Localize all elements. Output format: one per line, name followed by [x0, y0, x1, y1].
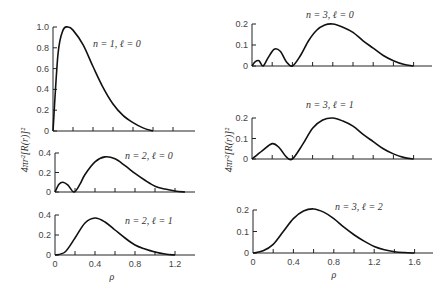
panel-label: n = 2, ℓ = 1 — [125, 215, 173, 226]
y-tick-label: 0.2 — [36, 105, 49, 115]
x-axis-title-left: ρ — [109, 271, 115, 282]
y-tick-label: 0.4 — [38, 210, 51, 220]
y-tick-label: 0.2 — [38, 168, 51, 178]
panel-n3l2: 00.10.200.40.81.21.6n = 3, ℓ = 2 — [236, 201, 433, 267]
y-tick-label: 0 — [243, 154, 248, 164]
panel-label: n = 3, ℓ = 1 — [306, 99, 354, 110]
y-tick-label: 0.2 — [236, 205, 249, 215]
panel-n1l0: 00.20.40.60.81.0n = 1, ℓ = 0 — [36, 22, 195, 136]
y-tick-label: 0.1 — [236, 227, 249, 237]
panel-label: n = 3, ℓ = 2 — [335, 201, 383, 212]
curve-n3l0 — [252, 24, 414, 66]
y-tick-label: 0.1 — [235, 134, 248, 144]
y-tick-label: 0.6 — [36, 64, 49, 74]
y-tick-label: 0.2 — [38, 230, 51, 240]
x-tick-label: 0.8 — [328, 257, 341, 267]
radial-distribution-figure: 00.20.40.60.81.0n = 1, ℓ = 000.20.4n = 2… — [0, 0, 446, 293]
panel-label: n = 1, ℓ = 0 — [93, 38, 141, 49]
panel-label: n = 3, ℓ = 0 — [306, 9, 354, 20]
panel-n3l1: 00.10.2n = 3, ℓ = 1 — [235, 99, 432, 164]
y-tick-label: 0.8 — [36, 43, 49, 53]
y-tick-label: 0.2 — [235, 113, 248, 123]
x-tick-label: 0.4 — [287, 257, 300, 267]
y-tick-label: 1.0 — [36, 22, 49, 32]
y-tick-label: 0 — [46, 187, 51, 197]
x-tick-label: 1.6 — [408, 257, 421, 267]
y-tick-label: 0.1 — [235, 40, 248, 50]
y-axis-title-right: 4πr²[R(r)]² — [223, 127, 235, 172]
panel-n2l0: 00.20.4n = 2, ℓ = 0 — [38, 148, 195, 197]
panel-label: n = 2, ℓ = 0 — [125, 150, 173, 161]
y-tick-label: 0 — [243, 61, 248, 71]
panel-n2l1: 00.20.400.40.81.2n = 2, ℓ = 1 — [38, 210, 195, 269]
panels-group: 00.20.40.60.81.0n = 1, ℓ = 000.20.4n = 2… — [36, 9, 433, 269]
y-tick-label: 0 — [44, 126, 49, 136]
y-axis-title: 4πr²[R(r)]² — [19, 127, 31, 172]
curve-n2l0 — [55, 157, 185, 192]
x-tick-label: 0 — [250, 257, 255, 267]
x-tick-label: 1.2 — [169, 259, 182, 269]
y-tick-label: 0.4 — [38, 148, 51, 158]
y-tick-label: 0.4 — [36, 84, 49, 94]
x-axis-title-right: ρ — [331, 269, 337, 280]
x-tick-label: 0 — [52, 259, 57, 269]
y-tick-label: 0.2 — [235, 19, 248, 29]
curve-n3l2 — [253, 209, 415, 253]
x-tick-label: 0.8 — [129, 259, 142, 269]
y-tick-label: 0 — [46, 250, 51, 260]
curve-n3l1 — [252, 118, 414, 160]
x-tick-label: 1.2 — [368, 257, 381, 267]
x-tick-label: 0.4 — [89, 259, 102, 269]
y-tick-label: 0 — [244, 248, 249, 258]
panel-n3l0: 00.10.2n = 3, ℓ = 0 — [235, 9, 432, 71]
